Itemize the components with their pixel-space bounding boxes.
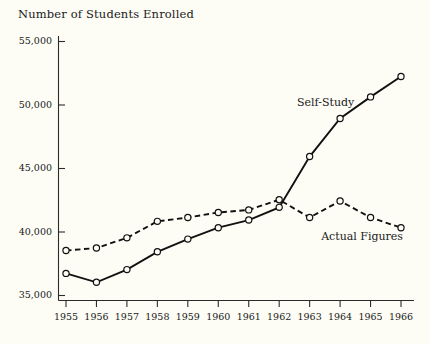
- data-point-marker: [215, 209, 221, 215]
- data-point-marker: [276, 204, 282, 210]
- x-axis-tick-marks: [66, 301, 401, 308]
- x-axis-tick-label: 1965: [358, 311, 382, 322]
- chart-container: Number of Students Enrolled 35,00040,000…: [0, 0, 430, 344]
- x-axis-tick-label: 1960: [206, 311, 230, 322]
- x-axis-tick-label: 1956: [84, 311, 108, 322]
- data-point-marker: [185, 236, 191, 242]
- data-point-marker: [124, 267, 130, 273]
- data-point-marker: [93, 245, 99, 251]
- x-axis-tick-label: 1961: [237, 311, 261, 322]
- chart-plot-area: 35,00040,00045,00050,00055,000 195519561…: [0, 0, 430, 344]
- y-axis-tick-label: 45,000: [19, 162, 52, 173]
- data-point-marker: [367, 94, 373, 100]
- data-point-marker: [63, 270, 69, 276]
- x-axis-tick-label: 1966: [389, 311, 413, 322]
- data-point-marker: [276, 197, 282, 203]
- data-point-marker: [154, 249, 160, 255]
- data-point-marker: [337, 198, 343, 204]
- data-point-marker: [246, 207, 252, 213]
- x-axis-tick-label: 1959: [176, 311, 200, 322]
- y-axis-tick-marks: [59, 42, 66, 296]
- y-axis-tick-label: 35,000: [19, 289, 52, 300]
- data-point-marker: [398, 73, 404, 79]
- x-axis-tick-label: 1957: [115, 311, 139, 322]
- data-point-marker: [185, 214, 191, 220]
- series-annotation-actual-figures: Actual Figures: [320, 230, 403, 243]
- y-axis-tick-labels: 35,00040,00045,00050,00055,000: [19, 35, 52, 300]
- y-axis-tick-label: 40,000: [19, 226, 52, 237]
- x-axis-tick-label: 1955: [54, 311, 78, 322]
- x-axis-tick-label: 1958: [145, 311, 169, 322]
- data-point-marker: [367, 214, 373, 220]
- x-axis-tick-label: 1964: [328, 311, 352, 322]
- data-point-marker: [246, 217, 252, 223]
- data-point-marker: [215, 225, 221, 231]
- data-point-marker: [93, 279, 99, 285]
- data-point-marker: [124, 235, 130, 241]
- y-axis-tick-label: 50,000: [19, 99, 52, 110]
- series-annotations: Self-StudyActual Figures: [297, 96, 403, 243]
- data-point-marker: [154, 218, 160, 224]
- data-point-marker: [63, 247, 69, 253]
- data-point-marker: [337, 115, 343, 121]
- y-axis-tick-label: 55,000: [19, 35, 52, 46]
- x-axis-tick-labels: 1955195619571958195919601961196219631964…: [54, 311, 413, 322]
- series-annotation-self-study: Self-Study: [297, 96, 355, 109]
- x-axis-tick-label: 1963: [298, 311, 322, 322]
- x-axis-tick-label: 1962: [267, 311, 291, 322]
- data-point-marker: [307, 214, 313, 220]
- data-point-marker: [307, 153, 313, 159]
